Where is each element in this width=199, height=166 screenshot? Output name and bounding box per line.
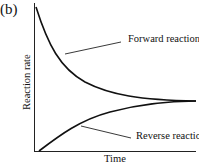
reverse-leader-line — [81, 126, 131, 138]
forward-reaction-label: Forward reaction — [128, 34, 199, 45]
reaction-rate-diagram: (b) Forward reaction Reverse reaction Ti… — [0, 0, 199, 166]
reverse-reaction-label: Reverse reaction — [136, 131, 199, 142]
x-axis-label: Time — [104, 154, 126, 165]
panel-label: (b) — [0, 2, 18, 17]
reverse-reaction-curve — [39, 101, 196, 151]
forward-reaction-curve — [36, 7, 196, 101]
y-axis-label: Reaction rate — [22, 54, 33, 110]
forward-leader-line — [65, 42, 121, 54]
